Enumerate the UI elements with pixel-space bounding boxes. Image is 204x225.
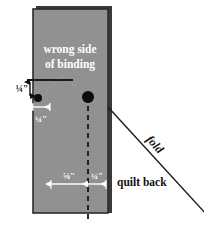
- small-dot-marker: [34, 94, 42, 102]
- binding-strip: [33, 9, 108, 213]
- quilt-back-label: quilt back: [117, 176, 167, 189]
- five-eighths-label: ⅝": [63, 171, 75, 181]
- quilt-binding-diagram: wrong side of binding ¼" ¼" ⅝" ¼" fold q…: [0, 0, 204, 225]
- quarter-inch-horizontal-label: ¼": [35, 114, 47, 124]
- fold-line: [108, 107, 204, 214]
- binding-label-line1: wrong side: [43, 43, 96, 56]
- quarter-inch-vertical-label: ¼": [16, 84, 28, 94]
- fold-label: fold: [143, 132, 167, 156]
- binding-label-line2: of binding: [45, 58, 95, 71]
- diagram-canvas: wrong side of binding ¼" ¼" ⅝" ¼" fold q…: [0, 0, 204, 225]
- quarter-inch-bottom-label: ¼": [91, 171, 103, 181]
- large-dot-marker: [82, 91, 94, 103]
